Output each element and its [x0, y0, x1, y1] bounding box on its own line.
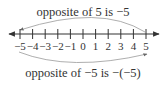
tick-label: 3 — [118, 40, 124, 52]
tick-label: −5 — [14, 40, 26, 52]
tick-label: 5 — [143, 40, 149, 52]
tick-label: −2 — [52, 40, 64, 52]
tick-label: 1 — [93, 40, 99, 52]
tick-labels: −5−4−3−2−1012345 — [14, 40, 149, 52]
top-caption: opposite of 5 is −5 — [36, 5, 129, 19]
number-line-diagram: opposite of 5 is −5 −5−4−3−2−1012345 opp… — [0, 0, 164, 86]
tick-label: 2 — [105, 40, 111, 52]
tick-label: −4 — [27, 40, 39, 52]
tick-label: 4 — [131, 40, 137, 52]
tick-label: −3 — [39, 40, 51, 52]
tick-label: 0 — [80, 40, 86, 52]
bottom-caption: opposite of −5 is −(−5) — [25, 66, 141, 80]
tick-label: −1 — [65, 40, 77, 52]
bottom-arc-arrow — [19, 52, 147, 63]
